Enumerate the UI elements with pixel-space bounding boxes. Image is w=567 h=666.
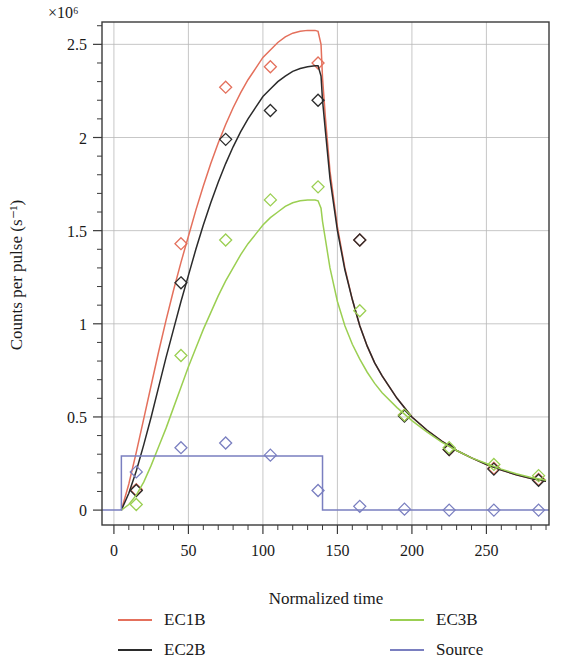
x-tick-label: 50 — [180, 542, 196, 559]
x-axis-title: Normalized time — [269, 589, 384, 608]
y-tick-label: 1.5 — [67, 223, 87, 240]
y-tick-label: 1 — [79, 316, 87, 333]
y-axis-title: Counts per pulse (s⁻¹) — [7, 200, 26, 351]
y-tick-label: 2 — [79, 130, 87, 147]
legend-label-ec3b: EC3B — [436, 610, 478, 629]
x-tick-label: 250 — [474, 542, 498, 559]
x-tick-label: 150 — [325, 542, 349, 559]
y-tick-label: 2.5 — [67, 36, 87, 53]
y-tick-label: 0 — [79, 502, 87, 519]
figure-background — [0, 0, 567, 666]
legend-label-source: Source — [436, 640, 483, 659]
legend-label-ec2b: EC2B — [164, 640, 206, 659]
y-axis-multiplier-label: ×10⁶ — [48, 4, 79, 21]
x-tick-label: 100 — [251, 542, 275, 559]
x-tick-label: 200 — [400, 542, 424, 559]
legend-label-ec1b: EC1B — [164, 610, 206, 629]
y-tick-label: 0.5 — [67, 409, 87, 426]
x-tick-label: 0 — [110, 542, 118, 559]
chart-figure: ×10⁶ 05010015020025000.511.522.5 Normali… — [0, 0, 567, 666]
